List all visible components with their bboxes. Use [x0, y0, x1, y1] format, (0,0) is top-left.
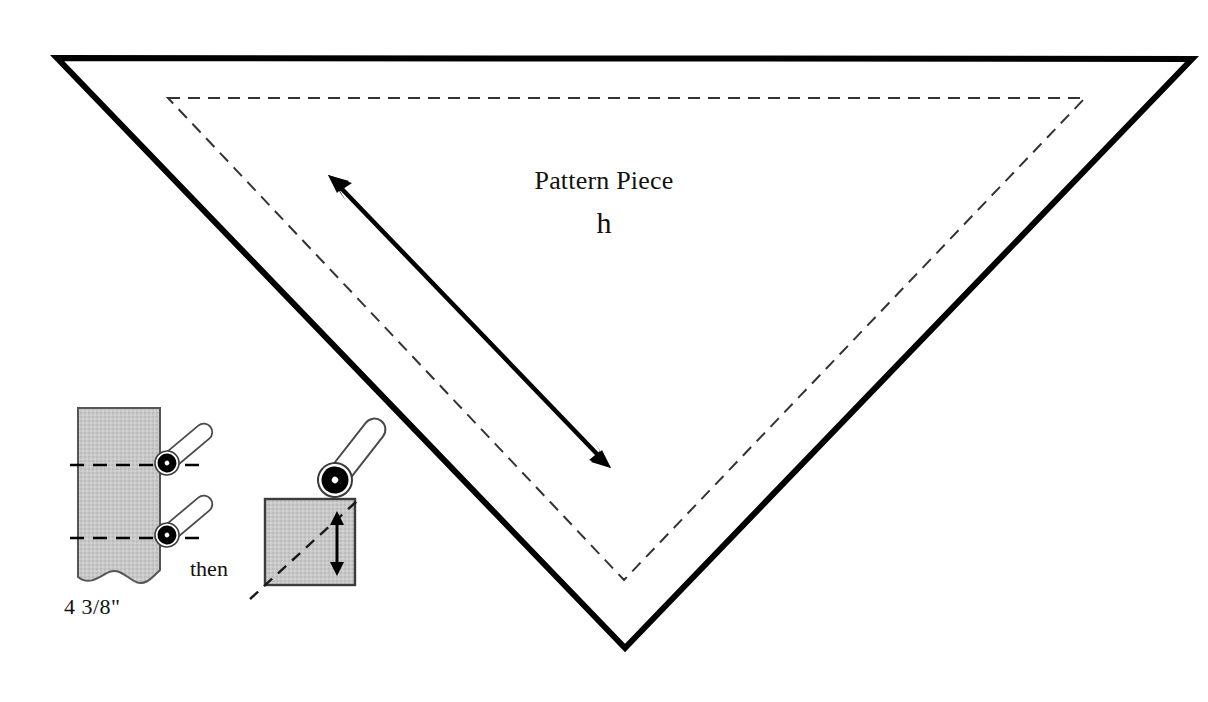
measurement-label: 4 3/8"	[64, 594, 121, 620]
fabric-strip	[78, 408, 160, 583]
fabric-strip-group	[70, 408, 200, 583]
folded-square-group	[250, 499, 357, 599]
pattern-piece-identifier: h	[0, 206, 1208, 240]
pattern-diagram-page: Pattern Piece h then 4 3/8"	[0, 0, 1208, 702]
step-connector-label: then	[190, 556, 228, 582]
pattern-piece-title: Pattern Piece	[0, 166, 1208, 196]
pattern-diagram-canvas	[0, 0, 1208, 702]
pin-square-icon	[311, 410, 394, 503]
